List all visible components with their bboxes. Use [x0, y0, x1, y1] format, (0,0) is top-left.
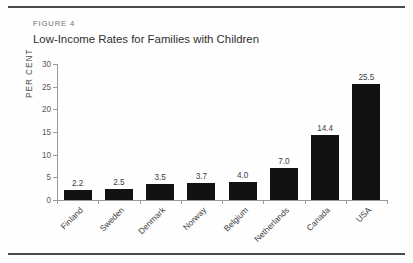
figure-bottom-rule	[8, 253, 405, 255]
figure-number: FIGURE 4	[33, 19, 75, 28]
figure-top-rule	[8, 6, 405, 8]
x-tick-mark	[140, 200, 141, 204]
x-category-label: USA	[354, 205, 373, 224]
y-axis-title: PER CENT	[25, 49, 34, 98]
bar-value-label: 7.0	[278, 157, 289, 166]
x-tick-mark	[181, 200, 182, 204]
bar-value-label: 3.7	[196, 172, 207, 181]
x-category-label: Norway	[181, 205, 208, 232]
y-tick-label: 20	[42, 105, 51, 114]
x-category-label: Sweden	[97, 205, 125, 233]
bar: 3.7	[187, 183, 215, 200]
plot-area: 051015202530 2.2Finland2.5Sweden3.5Denma…	[57, 64, 387, 200]
bar-value-label: 2.2	[72, 179, 83, 188]
bar-group: 25.5USA	[346, 64, 387, 200]
figure-container: FIGURE 4 Low-Income Rates for Families w…	[0, 0, 413, 263]
bar-group: 14.4Canada	[305, 64, 346, 200]
x-category-label: Denmark	[136, 205, 167, 236]
bar: 2.5	[105, 189, 133, 200]
y-tick-label: 25	[42, 82, 51, 91]
bar-group: 4.0Belgium	[222, 64, 263, 200]
x-tick-mark	[57, 200, 58, 204]
x-tick-mark	[346, 200, 347, 204]
bar: 14.4	[311, 135, 339, 200]
bar-group: 3.5Denmark	[140, 64, 181, 200]
x-tick-mark	[222, 200, 223, 204]
bar-value-label: 25.5	[358, 73, 374, 82]
bar-value-label: 14.4	[317, 124, 333, 133]
y-tick-label: 30	[42, 60, 51, 69]
y-tick-label: 5	[46, 173, 51, 182]
x-tick-mark	[305, 200, 306, 204]
x-category-label: Canada	[304, 205, 332, 233]
bar-value-label: 2.5	[113, 178, 124, 187]
bar-value-label: 4.0	[237, 171, 248, 180]
bar-group: 2.2Finland	[57, 64, 98, 200]
bar-group: 3.7Norway	[181, 64, 222, 200]
y-tick-label: 10	[42, 150, 51, 159]
x-tick-mark	[98, 200, 99, 204]
bar: 4.0	[229, 182, 257, 200]
bar-value-label: 3.5	[154, 173, 165, 182]
x-category-label: Finland	[58, 205, 84, 231]
figure-title: Low-Income Rates for Families with Child…	[33, 33, 259, 45]
x-category-label: Netherlands	[252, 205, 291, 244]
bar: 7.0	[270, 168, 298, 200]
bar-group: 2.5Sweden	[98, 64, 139, 200]
bar-group: 7.0Netherlands	[263, 64, 304, 200]
y-tick-label: 15	[42, 128, 51, 137]
bar: 2.2	[64, 190, 92, 200]
x-tick-mark	[387, 200, 388, 204]
y-tick-label: 0	[46, 196, 51, 205]
x-tick-mark	[263, 200, 264, 204]
bar: 3.5	[146, 184, 174, 200]
bar: 25.5	[352, 84, 380, 200]
x-category-label: Belgium	[221, 205, 249, 233]
